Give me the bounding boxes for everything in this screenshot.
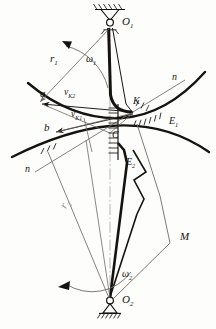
label-point-C: C (112, 130, 119, 140)
link-O1-K (109, 28, 133, 113)
label-pivot-O2: O2 (122, 294, 133, 308)
label-point-a: a (40, 88, 46, 99)
label-omega2: ω2 (122, 269, 132, 281)
label-normal-left: n (25, 164, 30, 174)
label-normal-right: n (172, 72, 177, 82)
label-velocity-vK2: vK2 (64, 88, 75, 100)
bottom-ground-support (98, 297, 122, 318)
label-velocity-vK1: vK1 (71, 110, 82, 122)
diagram-canvas: O1 O2 r1 r2 ω1 ω2 vK2 vK1 a b C K M E1 E… (0, 0, 216, 329)
cam-profile-upper-E1 (28, 72, 205, 127)
radius-r2-line (48, 140, 110, 298)
label-omega1: ω1 (86, 54, 96, 66)
label-point-K: K (133, 96, 140, 106)
label-profile-E1: E1 (169, 116, 178, 128)
diagram-vector-layer (0, 0, 216, 329)
label-radius-r1: r1 (50, 53, 58, 67)
label-profile-E2: E2 (126, 157, 135, 169)
cam-profile-lower-E2 (12, 125, 209, 157)
label-point-M: M (180, 231, 189, 242)
label-pivot-O1: O1 (122, 16, 133, 30)
omega1-arc (62, 41, 108, 88)
omega2-arc (58, 272, 131, 292)
linkage-right-to-M (110, 124, 170, 299)
label-point-b: b (44, 122, 50, 133)
